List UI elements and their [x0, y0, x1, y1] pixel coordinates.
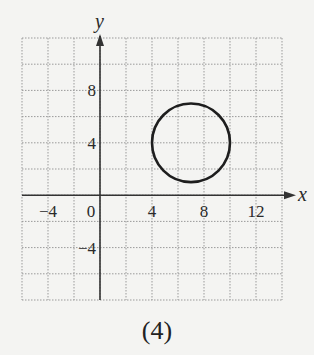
- x-tick-label: 12: [248, 202, 265, 221]
- figure-caption: (4): [0, 316, 314, 346]
- y-axis-arrow-icon: [96, 34, 104, 46]
- y-tick-label: −4: [78, 239, 97, 258]
- y-tick-label: 4: [88, 134, 97, 153]
- x-tick-label: 4: [148, 202, 157, 221]
- coordinate-plane: xy−404812−448: [0, 0, 314, 355]
- x-tick-label: 8: [200, 202, 209, 221]
- x-axis-arrow-icon: [284, 191, 296, 199]
- x-axis-label: x: [297, 183, 307, 205]
- x-tick-label: −4: [39, 202, 58, 221]
- y-axis-label: y: [93, 10, 104, 33]
- x-tick-label: 0: [87, 202, 96, 221]
- y-tick-label: 8: [88, 81, 97, 100]
